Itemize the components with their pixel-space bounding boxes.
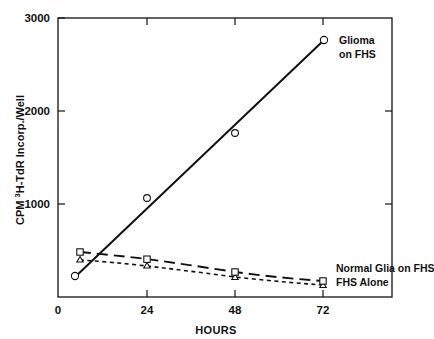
x-tick-label-24: 24: [141, 304, 154, 316]
y-axis-title-suffix: H-TdR Incorp./Well: [14, 95, 26, 193]
data-point-marker: [144, 195, 151, 202]
y-tick-label-2000: 2000: [24, 105, 50, 117]
series-label-fhs-alone: FHS Alone: [336, 276, 389, 288]
data-point-marker: [320, 36, 327, 43]
data-point-marker: [144, 256, 150, 262]
svg-text:CPM 3H-TdR Incorp./Well: CPM 3H-TdR Incorp./Well: [13, 95, 26, 225]
x-tick-label-48: 48: [229, 304, 242, 316]
y-tick-label-1000: 1000: [24, 198, 50, 210]
data-point-marker: [77, 249, 83, 255]
y-tick-label-3000: 3000: [24, 12, 50, 24]
x-tick-label-72: 72: [317, 304, 330, 316]
data-point-marker: [232, 130, 239, 137]
series-label-normal-glia: Normal Glia on FHS: [336, 262, 434, 274]
y-axis-title-prefix: CPM: [14, 197, 26, 225]
data-point-marker: [320, 278, 326, 284]
data-point-marker: [232, 269, 238, 275]
series-label-glioma-line1: Glioma: [339, 34, 375, 46]
data-point-marker: [71, 272, 78, 279]
x-axis-title: HOURS: [195, 324, 237, 336]
x-tick-label-0: 0: [55, 304, 61, 316]
series-label-glioma-line2: on FHS: [339, 48, 376, 60]
y-axis-title: CPM 3H-TdR Incorp./Well: [13, 95, 26, 225]
chart-figure: 3000 2000 1000 0 24 48 72 HOURS CPM 3H-T…: [0, 0, 434, 339]
